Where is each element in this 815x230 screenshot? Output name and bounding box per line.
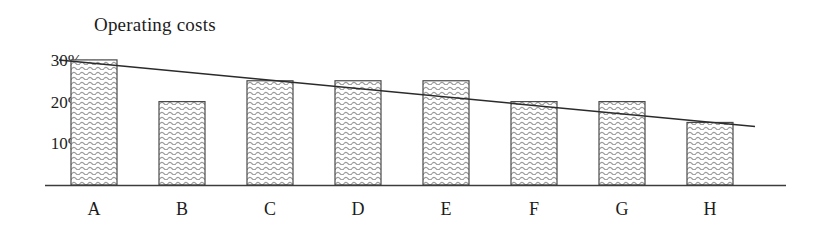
x-tick-label-c: C xyxy=(227,200,313,218)
x-tick-label-a: A xyxy=(51,200,137,218)
bar-a xyxy=(71,60,117,185)
x-tick-label-d: D xyxy=(315,200,401,218)
bar-b xyxy=(159,102,205,185)
x-tick-label-h: H xyxy=(667,200,753,218)
bar-d xyxy=(335,81,381,185)
bar-f xyxy=(511,102,557,185)
x-tick-label-g: G xyxy=(579,200,665,218)
x-tick-label-f: F xyxy=(491,200,577,218)
bar-c xyxy=(247,81,293,185)
x-tick-label-e: E xyxy=(403,200,489,218)
x-tick-label-b: B xyxy=(139,200,225,218)
operating-costs-bar-chart: Operating costs 30%20%10% ABCDEFGH xyxy=(0,0,815,230)
chart-plot-area xyxy=(0,0,815,230)
bar-h xyxy=(687,122,733,185)
bars-group xyxy=(71,60,733,185)
